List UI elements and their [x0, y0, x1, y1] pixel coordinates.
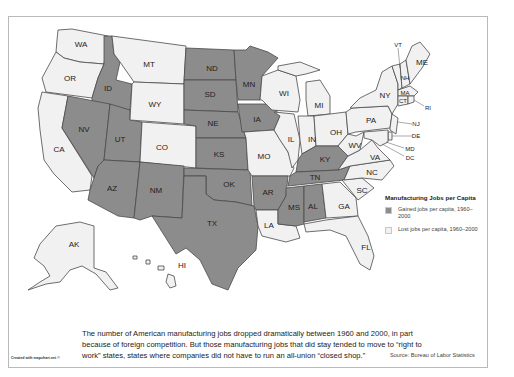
legend-item-gained: Gained jobs per capita, 1960–2000 [385, 206, 485, 220]
label-RI: RI [425, 105, 431, 111]
label-SD: SD [204, 90, 215, 99]
label-DC: DC [406, 155, 415, 161]
label-NV: NV [78, 125, 90, 134]
label-OR: OR [64, 74, 76, 83]
label-DE: DE [412, 133, 420, 139]
state-HI-oahu[interactable] [146, 260, 150, 264]
label-NY: NY [379, 91, 391, 100]
label-MA: MA [401, 90, 410, 96]
state-HI-maui[interactable] [158, 266, 164, 270]
label-MT: MT [143, 60, 155, 69]
label-TX: TX [207, 219, 218, 228]
label-VA: VA [370, 153, 381, 162]
legend-label-lost: Lost jobs per capita, 1960–2000 [398, 226, 478, 233]
map-caption: The number of American manufacturing job… [82, 328, 432, 361]
legend-item-lost: Lost jobs per capita, 1960–2000 [385, 226, 485, 234]
label-NH: NH [401, 75, 410, 81]
state-NJ[interactable] [390, 114, 398, 134]
label-SC: SC [356, 186, 367, 195]
label-WY: WY [149, 100, 163, 109]
map-legend: Manufacturing Jobs per Capita Gained job… [385, 194, 485, 240]
label-CO: CO [156, 143, 168, 152]
label-WA: WA [75, 40, 88, 49]
label-LA: LA [264, 221, 274, 230]
label-IL: IL [288, 135, 295, 144]
label-MI: MI [315, 101, 324, 110]
state-NY[interactable] [350, 66, 398, 114]
label-KY: KY [320, 155, 331, 164]
state-DE[interactable] [388, 132, 392, 140]
label-MO: MO [258, 152, 271, 161]
label-TN: TN [310, 173, 321, 182]
label-PA: PA [366, 116, 377, 125]
label-NE: NE [207, 119, 218, 128]
label-MS: MS [288, 203, 300, 212]
label-FL: FL [361, 243, 371, 252]
us-choropleth-map: WA OR CA ID NV UT AZ MT WY CO NM ND SD N… [0, 0, 514, 377]
source-note: Source: Bureau of Labor Statistics [390, 352, 475, 358]
label-CA: CA [53, 145, 65, 154]
lost-swatch-icon [385, 227, 392, 234]
label-ID: ID [104, 84, 112, 93]
label-AL: AL [308, 202, 318, 211]
label-CT: CT [399, 98, 407, 104]
label-HI: HI [178, 261, 186, 270]
label-UT: UT [115, 135, 126, 144]
label-AZ: AZ [107, 184, 117, 193]
label-WV: WV [349, 141, 363, 150]
label-AR: AR [262, 188, 273, 197]
label-ND: ND [206, 64, 218, 73]
label-ME: ME [416, 58, 428, 67]
legend-title: Manufacturing Jobs per Capita [385, 194, 485, 201]
label-WI: WI [279, 89, 289, 98]
label-MD: MD [405, 146, 415, 152]
label-KS: KS [214, 150, 225, 159]
label-GA: GA [338, 202, 350, 211]
label-NM: NM [150, 186, 163, 195]
state-HI-kauai[interactable] [133, 256, 137, 259]
state-RI[interactable] [408, 96, 414, 104]
state-HI-big[interactable] [166, 274, 176, 288]
state-CO[interactable] [140, 122, 196, 168]
label-OH: OH [330, 128, 342, 137]
legend-label-gained: Gained jobs per capita, 1960–2000 [398, 206, 485, 220]
state-MI[interactable] [306, 80, 330, 116]
label-IN: IN [308, 135, 316, 144]
label-VT: VT [394, 42, 402, 48]
label-IA: IA [253, 115, 261, 124]
label-OK: OK [223, 180, 235, 189]
mapchart-credit: Created with mapchart.net © [11, 356, 60, 360]
label-NC: NC [366, 168, 378, 177]
label-MN: MN [243, 80, 256, 89]
label-NJ: NJ [412, 121, 419, 127]
label-AK: AK [69, 240, 80, 249]
gained-swatch-icon [385, 207, 392, 214]
state-AK[interactable] [28, 222, 118, 290]
